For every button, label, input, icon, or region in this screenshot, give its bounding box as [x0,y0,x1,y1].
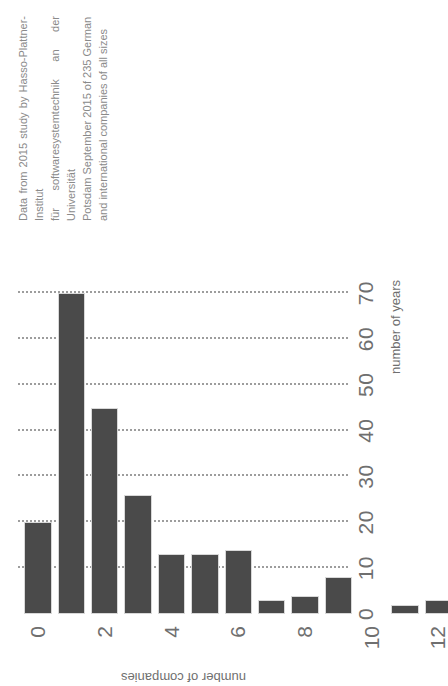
bar-chart-figure: Data from 2015 study by Hasso-Plattner-I… [0,0,448,686]
y-axis-tick-label: 60 [354,327,378,351]
y-axis-tick-label: 50 [354,373,378,397]
x-axis-tick-label: 6 [226,626,250,638]
y-axis-tick-label: 40 [354,418,378,442]
y-axis-tick-label: 10 [354,556,378,580]
y-axis-title: number of companies [18,668,348,686]
rotated-figure-wrapper: Data from 2015 study by Hasso-Plattner-I… [0,0,448,686]
x-axis-tick-label: 4 [160,626,184,638]
y-axis-tick-label: 20 [354,510,378,534]
bar [425,600,448,614]
y-axis-tick-label: 0 [354,608,378,620]
x-axis-tick-label: 0 [26,626,50,638]
x-axis-tick-label: 8 [293,626,317,638]
y-axis-title-label: number of companies [120,670,245,685]
x-axis-tick-label: 10 [360,626,384,649]
plot-area: 010203040506070 0246810121416 [18,40,348,614]
x-axis-title: number of years [388,40,403,614]
y-axis-ticks: 0246810121416 [18,40,348,614]
y-axis-tick-label: 30 [354,464,378,488]
x-axis-tick-label: 2 [93,626,117,638]
y-axis-tick-label: 70 [354,281,378,305]
x-axis-tick-label: 12 [426,626,448,649]
